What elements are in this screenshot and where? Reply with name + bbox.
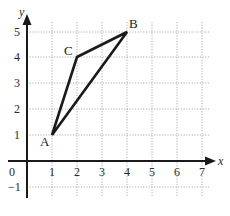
y-tick-label: 2 bbox=[14, 102, 20, 116]
point-a-label: A bbox=[40, 134, 50, 149]
y-axis-label: y bbox=[18, 5, 25, 19]
x-tick-label: 2 bbox=[74, 165, 80, 179]
x-axis-label: x bbox=[217, 154, 224, 168]
x-tick-label: 6 bbox=[174, 165, 180, 179]
x-tick-label: 7 bbox=[199, 165, 205, 179]
y-tick-label: −1 bbox=[8, 180, 21, 194]
y-tick-label: 4 bbox=[14, 50, 20, 64]
y-tick-label: 3 bbox=[14, 76, 20, 90]
coordinate-diagram: y x 0 1 2 3 4 5 6 7 5 4 3 2 1 −1 A B C bbox=[0, 0, 230, 216]
x-tick-label: 5 bbox=[149, 165, 155, 179]
x-tick-labels: 1 2 3 4 5 6 7 bbox=[49, 165, 205, 179]
x-tick-label: 1 bbox=[49, 165, 55, 179]
x-tick-label: 3 bbox=[99, 165, 105, 179]
x-tick-label: 4 bbox=[124, 165, 130, 179]
origin-label: 0 bbox=[9, 165, 15, 179]
axes bbox=[8, 14, 216, 198]
y-tick-label: 5 bbox=[14, 25, 20, 39]
x-axis-arrow-icon bbox=[205, 157, 216, 166]
y-tick-label: 1 bbox=[14, 128, 20, 142]
point-c-label: C bbox=[64, 43, 73, 58]
point-b-label: B bbox=[129, 16, 138, 31]
